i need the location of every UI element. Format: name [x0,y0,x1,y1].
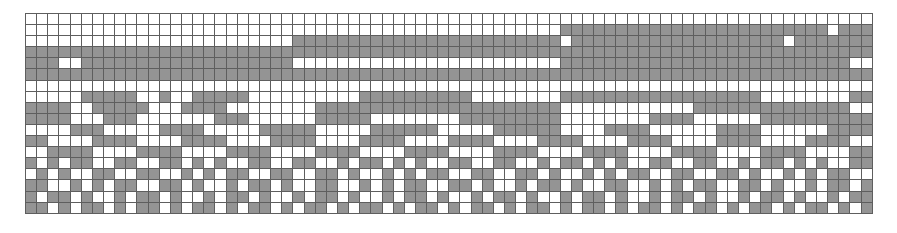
grid-cell [795,147,805,157]
grid-cell [750,136,760,146]
grid-cell [483,69,493,79]
grid-cell [806,203,816,213]
grid-cell [371,180,381,190]
grid-cell [215,81,225,91]
grid-cell [260,69,270,79]
grid-cell [48,180,58,190]
grid-cell [572,203,582,213]
grid-cell [405,47,415,57]
grid-cell [227,147,237,157]
grid-cell [149,192,159,202]
grid-cell [739,180,749,190]
grid-cell [338,92,348,102]
grid-cell [449,58,459,68]
grid-cell [605,81,615,91]
grid-cell [516,136,526,146]
grid-cell [59,103,69,113]
grid-cell [37,158,47,168]
grid-cell [583,114,593,124]
grid-cell [728,147,738,157]
grid-cell [48,136,58,146]
grid-cell [862,58,872,68]
grid-cell [149,203,159,213]
grid-cell [538,81,548,91]
grid-cell [561,114,571,124]
grid-cell [806,125,816,135]
grid-cell [561,69,571,79]
grid-cell [538,58,548,68]
grid-cell [761,58,771,68]
grid-cell [249,180,259,190]
grid-cell [182,114,192,124]
grid-cell [416,125,426,135]
grid-cell [26,36,36,46]
grid-cell [850,203,860,213]
grid-cell [371,169,381,179]
grid-cell [605,158,615,168]
grid-cell [628,92,638,102]
grid-cell [594,36,604,46]
grid-cell [93,180,103,190]
grid-cell [160,47,170,57]
grid-cell [850,47,860,57]
grid-cell [137,103,147,113]
grid-cell [104,69,114,79]
grid-cell [59,25,69,35]
grid-cell [527,136,537,146]
grid-cell [862,14,872,24]
grid-cell [628,25,638,35]
grid-cell [449,114,459,124]
grid-cell [327,25,337,35]
grid-cell [193,69,203,79]
grid-cell [561,47,571,57]
grid-cell [739,69,749,79]
grid-cell [371,36,381,46]
grid-cell [249,125,259,135]
grid-cell [26,69,36,79]
grid-cell [694,125,704,135]
grid-cell [628,69,638,79]
grid-cell [650,169,660,179]
grid-cell [449,14,459,24]
grid-cell [683,92,693,102]
grid-cell [694,69,704,79]
grid-cell [717,203,727,213]
grid-cell [795,180,805,190]
grid-cell [650,92,660,102]
grid-cell [672,36,682,46]
grid-cell [594,114,604,124]
grid-cell [305,114,315,124]
grid-cell [338,14,348,24]
grid-cell [550,169,560,179]
grid-cell [639,203,649,213]
grid-cell [628,180,638,190]
grid-cell [82,136,92,146]
grid-cell [472,114,482,124]
grid-cell [427,180,437,190]
grid-cell [227,169,237,179]
grid-cell [706,69,716,79]
grid-cell [784,47,794,57]
grid-cell [316,47,326,57]
grid-cell [616,47,626,57]
grid-cell [137,69,147,79]
grid-cell [371,69,381,79]
grid-cell [706,192,716,202]
grid-cell [449,147,459,157]
grid-cell [305,69,315,79]
grid-cell [739,58,749,68]
grid-cell [694,114,704,124]
grid-cell [706,92,716,102]
grid-cell [828,103,838,113]
grid-cell [82,58,92,68]
grid-cell [605,14,615,24]
grid-cell [516,81,526,91]
grid-cell [338,81,348,91]
grid-cell [260,36,270,46]
grid-cell [761,36,771,46]
grid-cell [260,136,270,146]
grid-cell [460,25,470,35]
grid-cell [93,92,103,102]
grid-cell [26,147,36,157]
grid-cell [594,203,604,213]
